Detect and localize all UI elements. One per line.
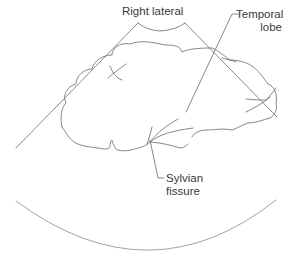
right-lateral-label: Right lateral [122,5,183,18]
aperture-brace [138,23,185,31]
temporal-lobe-label: Temporal lobe [236,8,282,34]
temporal-lobe-label-line1: Temporal [236,8,282,21]
temporal-lobe-label-line2: lobe [236,21,282,34]
gyrus-mark-2 [108,64,126,78]
sector-bottom-arc [16,200,276,250]
sylvian-fissure-leader [150,140,164,178]
gyrus-mark-3 [246,99,266,100]
sylvian-fissure-label-line2: fissure [166,185,203,198]
sylvian-fissure-label-line1: Sylvian [166,172,203,185]
sylvian-branch-3 [150,142,188,148]
sector-right-edge [185,23,277,117]
diagram-canvas: Right lateral Temporal lobe Sylvian fiss… [0,0,294,261]
sector-left-edge [16,23,138,148]
sylvian-fissure-label: Sylvian fissure [166,172,203,198]
sylvian-branch-1 [150,119,178,142]
diagram-drawing [0,0,294,261]
gyrus-mark-5 [266,88,276,100]
brain-outline-bottom-right [192,118,270,137]
brain-outline-top [61,42,276,127]
temporal-lobe-leader [186,14,240,112]
brain-outline-bottom-left [62,127,150,151]
